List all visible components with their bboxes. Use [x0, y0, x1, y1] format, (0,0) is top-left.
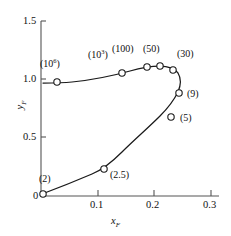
- point-annotation-1e6: (106): [40, 59, 60, 69]
- y-axis-title-base: y: [14, 105, 25, 110]
- point-annotation-5: (5): [180, 113, 192, 123]
- point-annotation-100: (100): [112, 44, 134, 54]
- data-point-50: [157, 63, 163, 69]
- y-tick-label-0_5: 0.5: [23, 132, 36, 143]
- y-tick-label-1_5: 1.5: [23, 16, 36, 27]
- point-annotation-9: (9): [187, 89, 199, 99]
- point-annotation-1e3-tail: ): [105, 49, 108, 60]
- data-point-9: [176, 90, 182, 96]
- y-axis-ticks: [41, 21, 46, 137]
- x-tick-label-0_3: 0.3: [203, 200, 216, 211]
- x-tick-label-0_1: 0.1: [90, 200, 103, 211]
- y-axis-title-sub: F: [20, 101, 28, 105]
- y-tick-label-1_0: 1.0: [23, 74, 36, 85]
- chart-figure: 1.5 1.0 0.5 0 0.1 0.2 0.3 xF yF (2) (2.5…: [0, 0, 231, 236]
- point-annotation-1e6-tail: ): [57, 58, 60, 69]
- point-annotation-30: (30): [177, 49, 194, 59]
- data-point-30: [170, 67, 176, 73]
- data-point-1e6: [54, 79, 60, 85]
- point-annotation-1e3: (103): [88, 50, 108, 60]
- y-axis-title: yF: [15, 101, 26, 110]
- x-axis-title-sub: F: [116, 221, 120, 229]
- point-annotation-1e6-base: (10: [40, 58, 53, 69]
- x-axis-ticks: [98, 190, 211, 196]
- point-annotation-2: (2): [39, 174, 51, 184]
- point-annotation-2_5: (2.5): [110, 170, 129, 180]
- data-point-1e3: [119, 70, 125, 76]
- point-annotation-50: (50): [143, 44, 160, 54]
- data-point-5: [168, 114, 174, 120]
- y-tick-label-0: 0: [33, 191, 38, 202]
- data-point-2_5: [101, 166, 107, 172]
- data-point-2: [40, 191, 46, 197]
- data-point-100: [144, 64, 150, 70]
- point-annotation-1e3-base: (10: [88, 49, 101, 60]
- x-axis-title: xF: [111, 216, 120, 227]
- x-tick-label-0_2: 0.2: [146, 200, 159, 211]
